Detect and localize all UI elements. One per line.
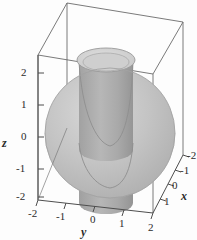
- x-tick-label-1: 1: [164, 196, 170, 207]
- z-tick-label-0: 0: [21, 131, 27, 142]
- y-tick-label-1: 1: [119, 218, 125, 229]
- z-axis-title: z: [2, 137, 7, 149]
- z-tick-label-1: 1: [21, 99, 27, 110]
- y-axis-title: y: [81, 226, 86, 238]
- plot-figure: 2 1 0 -1 -2 z -2 -1 0 1 2 y -2 -1 0 1 x: [0, 0, 197, 240]
- y-tick-label-neg2: -2: [28, 208, 37, 219]
- z-axis-ticks: [38, 73, 44, 197]
- x-axis-title: x: [181, 190, 187, 202]
- y-tick-label-2: 2: [148, 222, 154, 233]
- y-tick-label-neg1: -1: [56, 211, 65, 222]
- x-tick-label-neg1: -1: [180, 165, 189, 176]
- z-tick-label-neg2: -2: [16, 191, 25, 202]
- z-tick-label-2: 2: [21, 67, 27, 78]
- x-tick-label-0: 0: [172, 180, 178, 191]
- y-tick-label-0: 0: [90, 214, 96, 225]
- z-tick-label-neg1: -1: [16, 163, 25, 174]
- x-tick-label-neg2: -2: [187, 150, 196, 161]
